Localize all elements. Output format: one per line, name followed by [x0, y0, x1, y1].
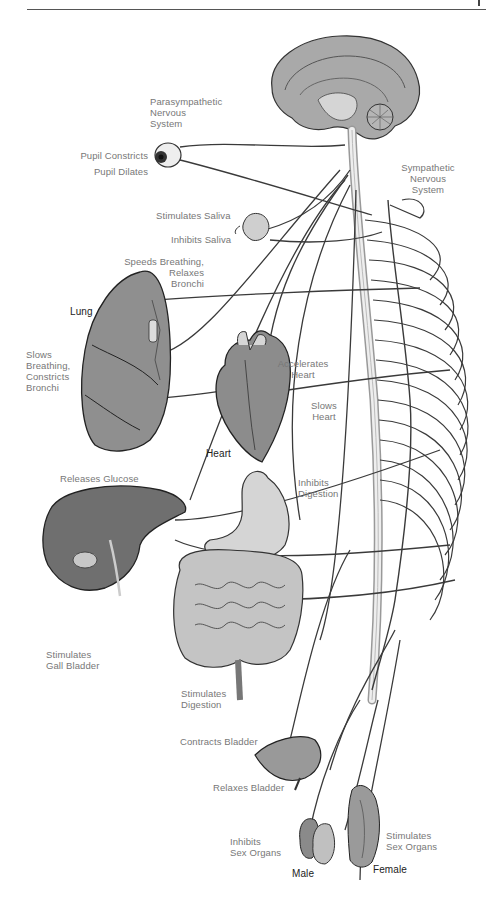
label-line: Inhibits	[298, 477, 339, 488]
label-slows-breathing: Slows Breathing, Constricts Bronchi	[26, 349, 70, 393]
eye	[155, 143, 181, 167]
stomach	[205, 471, 289, 561]
label-line: Speeds Breathing,	[100, 256, 204, 267]
label-lung: Lung	[70, 306, 93, 317]
label-line: Slows	[306, 400, 342, 411]
label-male: Male	[292, 868, 314, 879]
label-line: Stimulates	[46, 649, 99, 660]
label-stimulates-sex-organs: Stimulates Sex Organs	[386, 830, 437, 852]
label-line: Accelerates	[272, 358, 334, 369]
intestines	[174, 550, 303, 700]
label-line: Inhibits	[230, 836, 281, 847]
label-stimulates-digestion: Stimulates Digestion	[181, 688, 226, 710]
female-organs	[348, 785, 379, 867]
label-line: Stimulates	[386, 830, 437, 841]
label-line: Breathing,	[26, 360, 70, 371]
label-line: Digestion	[298, 488, 339, 499]
label-pupil-dilates: Pupil Dilates	[48, 166, 148, 177]
label-inhibits-saliva: Inhibits Saliva	[171, 234, 231, 245]
label-pupil-constricts: Pupil Constricts	[48, 150, 148, 161]
label-line: Stimulates	[181, 688, 226, 699]
label-heart: Heart	[206, 448, 231, 459]
label-line: System	[150, 118, 222, 129]
label-contracts-bladder: Contracts Bladder	[180, 736, 258, 747]
label-line: Digestion	[181, 699, 226, 710]
label-line: Slows	[26, 349, 70, 360]
label-inhibits-sex-organs: Inhibits Sex Organs	[230, 836, 281, 858]
label-female: Female	[373, 864, 407, 875]
label-line: Relaxes	[100, 267, 204, 278]
label-releases-glucose: Releases Glucose	[60, 473, 139, 484]
male-organs	[300, 819, 335, 864]
lung	[82, 271, 171, 451]
label-line: System	[388, 184, 468, 195]
spinal-cord	[352, 130, 378, 700]
heart	[216, 331, 290, 462]
label-accelerates-heart: Accelerates Heart	[272, 358, 334, 380]
label-inhibits-digestion: Inhibits Digestion	[298, 477, 339, 499]
salivary-gland	[235, 213, 269, 240]
label-line: Sympathetic	[388, 162, 468, 173]
brain	[272, 36, 420, 139]
label-line: Bronchi	[26, 382, 70, 393]
label-slows-heart: Slows Heart	[306, 400, 342, 422]
label-relaxes-bladder: Relaxes Bladder	[213, 782, 284, 793]
label-speeds-breathing: Speeds Breathing, Relaxes Bronchi	[100, 256, 204, 289]
label-line: Bronchi	[100, 278, 204, 289]
liver	[43, 486, 186, 596]
label-line: Parasympathetic	[150, 96, 222, 107]
label-stimulates-saliva: Stimulates Saliva	[156, 210, 231, 221]
label-parasympathetic: Parasympathetic Nervous System	[150, 96, 222, 129]
label-sympathetic: Sympathetic Nervous System	[388, 162, 468, 195]
label-stimulates-gall-bladder: Stimulates Gall Bladder	[46, 649, 99, 671]
label-line: Nervous	[388, 173, 468, 184]
label-line: Heart	[272, 369, 334, 380]
label-line: Heart	[306, 411, 342, 422]
label-line: Gall Bladder	[46, 660, 99, 671]
autonomic-nervous-system-illustration	[0, 0, 486, 897]
label-line: Nervous	[150, 107, 222, 118]
label-line: Constricts	[26, 371, 70, 382]
label-line: Sex Organs	[230, 847, 281, 858]
label-line: Sex Organs	[386, 841, 437, 852]
